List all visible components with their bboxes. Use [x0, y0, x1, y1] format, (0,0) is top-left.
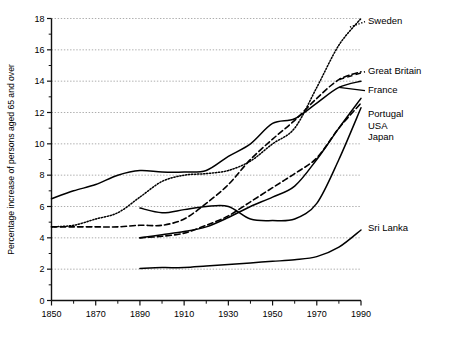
y-axis-title: Percentage increase of persons aged 65 a… [6, 64, 16, 255]
y-tick-label-4: 4 [39, 233, 44, 243]
x-tick-label-1990: 1990 [351, 309, 371, 319]
ticks-group [47, 19, 361, 306]
series-line-japan [140, 108, 361, 221]
series-label-usa: USA [368, 120, 388, 131]
series-label-japan: Japan [368, 131, 394, 142]
series-line-portugal [140, 98, 361, 237]
series-line-usa [140, 103, 361, 238]
series-labels-group: SwedenGreat BritainFrancePortugalUSAJapa… [368, 15, 421, 233]
series-label-sri-lanka: Sri Lanka [368, 222, 409, 233]
y-tick-label-12: 12 [34, 108, 44, 118]
leader-line-france [339, 87, 365, 90]
y-tick-label-14: 14 [34, 76, 44, 86]
series-line-sri-lanka [140, 230, 361, 268]
y-tick-label-18: 18 [34, 14, 44, 24]
y-tick-label-2: 2 [39, 264, 44, 274]
series-label-sweden: Sweden [368, 15, 402, 26]
series-line-france [52, 81, 362, 199]
y-tick-label-8: 8 [39, 170, 44, 180]
y-tick-label-0: 0 [39, 296, 44, 306]
y-tick-label-6: 6 [39, 202, 44, 212]
series-label-france: France [368, 84, 398, 95]
x-tick-label-1890: 1890 [130, 309, 150, 319]
x-tick-label-1970: 1970 [307, 309, 327, 319]
line-chart: 0246810121416181850187018901910193019501… [0, 0, 459, 338]
series-label-great-britain: Great Britain [368, 65, 421, 76]
x-tick-label-1950: 1950 [263, 309, 283, 319]
y-tick-label-16: 16 [34, 45, 44, 55]
gridlines-group [52, 19, 362, 270]
series-label-portugal: Portugal [368, 108, 403, 119]
tick-labels-group: 0246810121416181850187018901910193019501… [34, 14, 371, 319]
x-tick-label-1930: 1930 [218, 309, 238, 319]
leader-lines-group [339, 22, 365, 91]
x-tick-label-1870: 1870 [86, 309, 106, 319]
x-tick-label-1850: 1850 [41, 309, 61, 319]
series-group [52, 19, 362, 269]
leader-line-great-britain [339, 72, 365, 80]
y-tick-label-10: 10 [34, 139, 44, 149]
series-line-sweden [52, 19, 362, 227]
series-line-great-britain [52, 72, 362, 227]
x-tick-label-1910: 1910 [174, 309, 194, 319]
chart-container: 0246810121416181850187018901910193019501… [0, 0, 459, 338]
axis-title-group: Percentage increase of persons aged 65 a… [6, 64, 16, 255]
